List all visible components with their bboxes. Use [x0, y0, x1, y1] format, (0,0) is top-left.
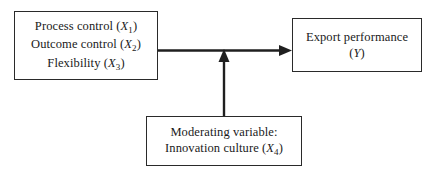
- node-line-y-symbol: (Y): [349, 45, 365, 61]
- variable-symbol-y: Y: [353, 46, 360, 60]
- node-line-moderating-label: Moderating variable:: [170, 124, 277, 140]
- variable-symbol-x3: X3: [108, 56, 120, 70]
- conceptual-model-diagram: Process control (X1) Outcome control (X2…: [0, 0, 435, 177]
- variable-symbol-x2: X2: [124, 37, 136, 51]
- node-line-export-performance: Export performance: [306, 29, 408, 45]
- variable-symbol-x4: X4: [266, 141, 278, 155]
- main-effect-arrowhead-icon: [279, 45, 292, 56]
- node-line-process-control: Process control (X1): [35, 18, 137, 36]
- node-line-innovation-culture: Innovation culture (X4): [165, 140, 283, 158]
- node-line-outcome-control: Outcome control (X2): [31, 36, 141, 54]
- node-independent-variables: Process control (X1) Outcome control (X2…: [14, 11, 158, 80]
- variable-symbol-x1: X1: [121, 19, 133, 33]
- node-moderating-variable: Moderating variable: Innovation culture …: [146, 116, 302, 166]
- moderation-arrowhead-icon: [219, 49, 230, 62]
- node-dependent-variable: Export performance (Y): [292, 18, 422, 72]
- node-line-flexibility: Flexibility (X3): [47, 55, 124, 73]
